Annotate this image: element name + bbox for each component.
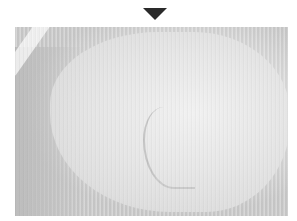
grayscale-photo	[15, 27, 288, 216]
down-triangle-icon	[143, 8, 167, 20]
scanline-texture	[15, 27, 288, 216]
